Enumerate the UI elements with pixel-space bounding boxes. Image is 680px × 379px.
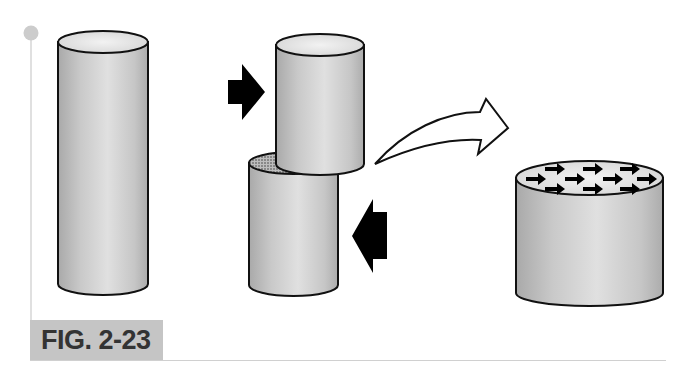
figure: FIG. 2-23 <box>0 0 680 379</box>
upper-piece <box>276 34 364 175</box>
figure-label-box: FIG. 2-23 <box>30 320 163 360</box>
sheared-cylinder <box>228 34 387 296</box>
transition-arrow-icon <box>375 99 508 164</box>
caption-rule <box>30 360 666 361</box>
intact-cylinder <box>58 31 148 295</box>
force-arrow-left-icon <box>352 199 387 273</box>
force-arrow-right-icon <box>228 64 265 120</box>
margin-marker <box>24 26 39 321</box>
shear-plane-cylinder <box>516 161 663 306</box>
figure-label: FIG. 2-23 <box>41 325 151 356</box>
